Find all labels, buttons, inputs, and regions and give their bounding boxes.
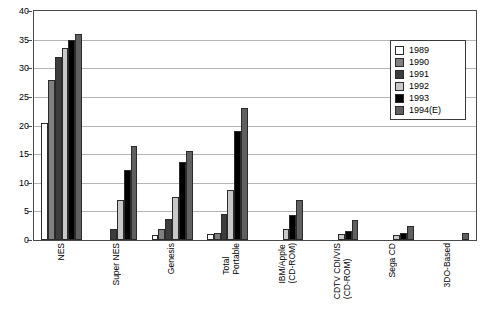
bar-group: [34, 11, 89, 240]
bar: [165, 219, 172, 240]
bar: [227, 190, 234, 240]
category-label-line: (CD-ROM): [342, 243, 352, 299]
bar-group: [310, 11, 365, 240]
bar: [186, 151, 193, 240]
legend-item[interactable]: 1993: [395, 92, 461, 104]
bar: [289, 215, 296, 240]
legend-item[interactable]: 1991: [395, 68, 461, 80]
bar: [62, 48, 69, 240]
y-axis-tick-mark: [27, 11, 32, 12]
category-label-line: Genesis: [166, 243, 176, 274]
bar: [41, 123, 48, 240]
bar: [338, 234, 345, 240]
category-label-line: (CD-ROM): [287, 243, 297, 284]
bar: [407, 226, 414, 240]
category-label-line: IBM/Apple: [277, 243, 287, 284]
legend-item[interactable]: 1990: [395, 56, 461, 68]
category-label: IBM/Apple(CD-ROM): [277, 243, 297, 284]
category-axis-labels: NESSuper NESGenesisTotalPortableIBM/Appl…: [34, 243, 476, 319]
y-axis-tick-mark: [27, 240, 32, 241]
category-label: CDTV CDI/VIS(CD-ROM): [332, 243, 352, 299]
bar: [158, 229, 165, 240]
category-label: 3DO-Based: [442, 243, 452, 287]
bar: [172, 197, 179, 240]
bar-group: [255, 11, 310, 240]
bar: [117, 200, 124, 240]
legend-label: 1994(E): [409, 106, 441, 115]
legend-item[interactable]: 1994(E): [395, 104, 461, 116]
legend-swatch: [395, 82, 404, 91]
bar: [352, 220, 359, 240]
y-axis-tick-mark: [27, 68, 32, 69]
legend: 198919901991199219931994(E): [390, 40, 466, 120]
y-axis-tick-mark: [27, 126, 32, 127]
category-label: NES: [56, 243, 66, 260]
category-label-line: Sega CD: [387, 243, 397, 278]
legend-swatch: [395, 46, 404, 55]
bar: [207, 234, 214, 240]
category-label-line: Total: [221, 243, 231, 275]
bar: [110, 229, 117, 240]
bar: [221, 214, 228, 240]
legend-item[interactable]: 1992: [395, 80, 461, 92]
bar-chart: 0510152025303540 NESSuper NESGenesisTota…: [0, 0, 487, 319]
legend-item[interactable]: 1989: [395, 44, 461, 56]
bar: [152, 235, 159, 240]
bar: [234, 131, 241, 240]
bar: [393, 235, 400, 240]
bar: [124, 170, 131, 240]
y-axis: 0510152025303540: [0, 0, 33, 241]
y-axis-tick-mark: [27, 97, 32, 98]
bar: [179, 162, 186, 240]
legend-label: 1991: [409, 70, 429, 79]
category-label-line: 3DO-Based: [442, 243, 452, 287]
category-label-line: Super NES: [111, 243, 121, 286]
bar: [462, 233, 469, 240]
y-axis-tick-mark: [27, 154, 32, 155]
category-label-line: NES: [56, 243, 66, 260]
category-label: TotalPortable: [221, 243, 241, 275]
category-label-line: Portable: [231, 243, 241, 275]
bar: [55, 57, 62, 240]
bar: [345, 231, 352, 240]
bar: [214, 233, 221, 240]
bar: [75, 34, 82, 240]
y-axis-tick-mark: [27, 183, 32, 184]
legend-swatch: [395, 58, 404, 67]
bar-group: [145, 11, 200, 240]
bar: [283, 229, 290, 240]
category-label-line: CDTV CDI/VIS: [332, 243, 342, 299]
bar: [131, 146, 138, 240]
legend-label: 1993: [409, 94, 429, 103]
bar: [400, 233, 407, 240]
legend-swatch: [395, 70, 404, 79]
bar: [68, 40, 75, 240]
bar: [48, 80, 55, 240]
legend-label: 1990: [409, 58, 429, 67]
bar-group: [200, 11, 255, 240]
category-label: Super NES: [111, 243, 121, 286]
category-label: Sega CD: [387, 243, 397, 278]
legend-swatch: [395, 94, 404, 103]
y-axis-tick-mark: [27, 40, 32, 41]
bar: [296, 200, 303, 240]
legend-label: 1992: [409, 82, 429, 91]
y-axis-tick-mark: [27, 211, 32, 212]
bar: [241, 108, 248, 240]
bar-group: [89, 11, 144, 240]
legend-swatch: [395, 106, 404, 115]
category-label: Genesis: [166, 243, 176, 274]
legend-label: 1989: [409, 46, 429, 55]
